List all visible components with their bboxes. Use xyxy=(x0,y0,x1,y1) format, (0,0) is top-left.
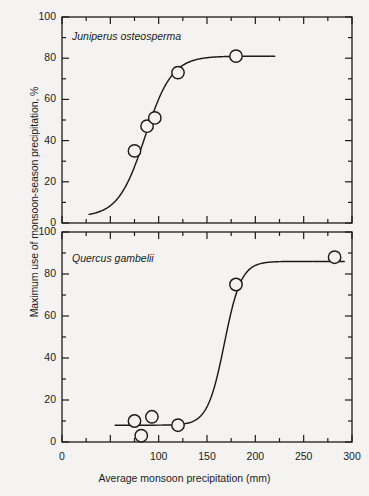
x-tick-label: 150 xyxy=(187,450,227,462)
data-point xyxy=(230,50,242,62)
fit-curve xyxy=(89,56,275,214)
x-tick-label: 200 xyxy=(235,450,275,462)
y-tick-label: 40 xyxy=(22,134,56,146)
y-tick-label: 40 xyxy=(22,351,56,363)
y-tick-label: 100 xyxy=(22,10,56,22)
data-point xyxy=(128,145,140,157)
panel-top xyxy=(62,17,352,223)
x-tick-label: 300 xyxy=(332,450,369,462)
data-point xyxy=(149,112,161,124)
plot-canvas xyxy=(0,0,369,496)
data-point xyxy=(172,66,184,78)
data-point xyxy=(172,419,184,431)
y-tick-label: 80 xyxy=(22,267,56,279)
x-tick-label: 100 xyxy=(139,450,179,462)
panel-bottom xyxy=(62,232,352,442)
data-point xyxy=(328,251,340,263)
panel-frame xyxy=(62,232,352,442)
y-tick-label: 80 xyxy=(22,51,56,63)
figure-root: Maximum use of monsoon-season precipitat… xyxy=(0,0,369,496)
data-point xyxy=(146,411,158,423)
data-point xyxy=(128,415,140,427)
panel-frame xyxy=(62,17,352,223)
y-tick-label: 0 xyxy=(22,435,56,447)
data-point xyxy=(230,278,242,290)
x-tick-label: 0 xyxy=(42,450,82,462)
y-tick-label: 20 xyxy=(22,393,56,405)
y-tick-label: 60 xyxy=(22,309,56,321)
y-tick-label: 60 xyxy=(22,92,56,104)
y-tick-label: 100 xyxy=(22,225,56,237)
data-point xyxy=(135,430,147,442)
y-tick-label: 20 xyxy=(22,175,56,187)
x-tick-label: 250 xyxy=(284,450,324,462)
